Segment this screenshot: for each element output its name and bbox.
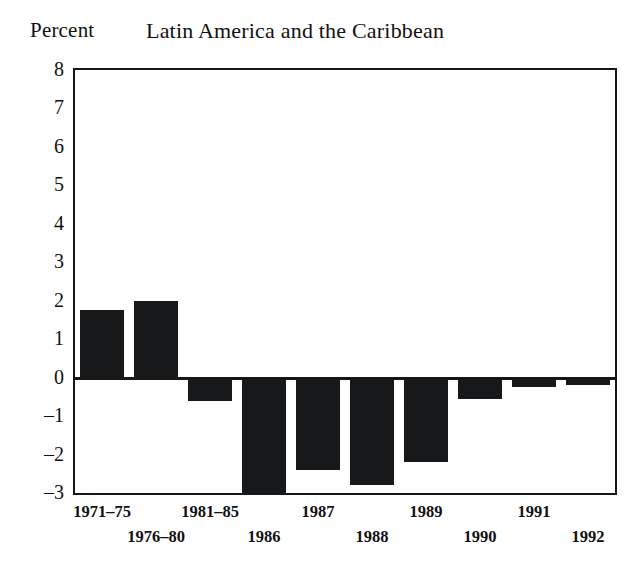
bar xyxy=(188,378,231,401)
chart-title: Latin America and the Caribbean xyxy=(146,18,444,44)
x-axis-label: 1991 xyxy=(518,503,551,521)
y-axis-label: 7 xyxy=(16,97,64,117)
x-axis-label: 1987 xyxy=(302,503,335,521)
chart-header: Percent Latin America and the Caribbean xyxy=(0,18,642,52)
x-axis-label: 1971–75 xyxy=(73,503,131,521)
bar xyxy=(404,378,447,463)
x-axis-label: 1988 xyxy=(356,528,389,546)
y-axis-label: 8 xyxy=(16,59,64,79)
x-axis-label: 1989 xyxy=(410,503,443,521)
y-axis-label: 0 xyxy=(16,367,64,387)
chart-figure: Percent Latin America and the Caribbean … xyxy=(0,0,642,566)
bar xyxy=(566,378,609,386)
bar xyxy=(80,310,123,377)
bar xyxy=(350,378,393,486)
x-axis-label: 1986 xyxy=(248,528,281,546)
x-axis-label: 1992 xyxy=(572,528,605,546)
y-axis-label: 6 xyxy=(16,136,64,156)
plot-inner xyxy=(75,70,615,493)
bar xyxy=(458,378,501,399)
x-axis-label: 1990 xyxy=(464,528,497,546)
y-axis-label: –1 xyxy=(16,405,64,425)
bar xyxy=(242,378,285,495)
bar xyxy=(296,378,339,470)
y-axis-label: –2 xyxy=(16,444,64,464)
y-axis-label: –3 xyxy=(16,482,64,502)
y-axis-label: 3 xyxy=(16,251,64,271)
x-axis-label: 1981–85 xyxy=(181,503,239,521)
x-axis-label: 1976–80 xyxy=(127,528,185,546)
plot-area xyxy=(73,68,617,495)
y-axis-unit-label: Percent xyxy=(30,18,94,43)
bar xyxy=(512,378,555,388)
y-axis-label: 2 xyxy=(16,290,64,310)
y-axis-label: 5 xyxy=(16,174,64,194)
bar xyxy=(134,301,177,378)
y-axis-label: 4 xyxy=(16,213,64,233)
y-axis-label: 1 xyxy=(16,328,64,348)
